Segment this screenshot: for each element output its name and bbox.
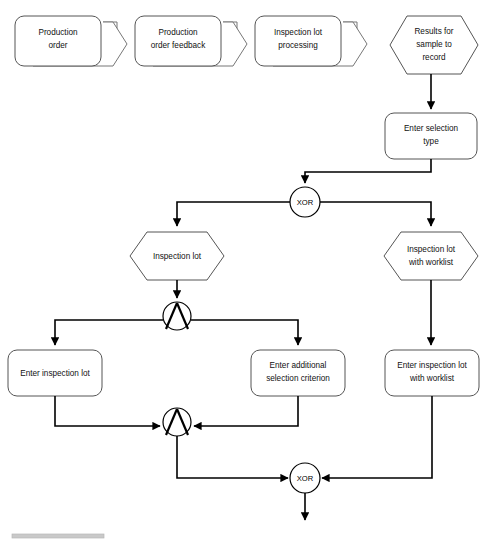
connector-xor-split-selection[interactable]: XOR	[290, 187, 320, 217]
connector-xor-join-final[interactable]: XOR	[290, 463, 320, 493]
edge-and-join-to-xor-join	[177, 436, 288, 478]
function-enter-inspection-lot-with-worklist-label-line-1: Enter inspection lot	[397, 361, 467, 370]
function-enter-inspection-lot-label: Enter inspection lot	[20, 369, 90, 378]
process-path-production-order-feedback-label-line-2: order feedback	[151, 41, 207, 50]
function-enter-selection-type-label-line-2: type	[423, 137, 439, 146]
process-path-production-order-feedback-label-line-1: Production	[158, 28, 198, 37]
function-enter-selection-type[interactable]: Enter selection type	[385, 113, 477, 159]
event-results-for-sample-label-line-1: Results for	[414, 27, 453, 36]
process-path-inspection-lot-processing-label-line-1: Inspection lot	[274, 28, 323, 37]
event-results-for-sample-label-line-3: record	[422, 53, 446, 62]
edge-xor-split-to-inspection-lot	[177, 202, 290, 226]
epc-diagram-svg: Production order Production order feedba…	[0, 0, 486, 542]
function-enter-inspection-lot-with-worklist-label-line-2: with worklist	[409, 374, 455, 383]
event-results-for-sample-to-record[interactable]: Results for sample to record	[390, 16, 478, 74]
process-path-inspection-lot-processing-label-line-2: processing	[278, 41, 318, 50]
event-inspection-lot-with-worklist-label-line-2: with worklist	[408, 258, 454, 267]
connector-xor-join-label: XOR	[297, 474, 314, 483]
edge-enter-inspection-lot-to-and-join	[55, 396, 160, 426]
function-enter-additional-selection-criterion-label-line-1: Enter additional	[270, 361, 327, 370]
process-path-production-order[interactable]: Production order	[15, 16, 127, 66]
function-enter-additional-selection-criterion-label-line-2: selection criterion	[266, 374, 330, 383]
edge-and-split-to-enter-additional-selection-criterion	[191, 320, 298, 345]
process-path-production-order-label-line-1: Production	[38, 28, 78, 37]
event-inspection-lot[interactable]: Inspection lot	[130, 232, 224, 280]
function-enter-inspection-lot[interactable]: Enter inspection lot	[8, 350, 102, 396]
process-path-inspection-lot-processing[interactable]: Inspection lot processing	[255, 16, 367, 66]
edge-enter-inspection-lot-with-worklist-to-xor-join	[322, 396, 432, 478]
footer-rule	[12, 534, 104, 538]
connector-and-split-inspection-lot[interactable]	[163, 302, 191, 330]
event-inspection-lot-label: Inspection lot	[153, 252, 202, 261]
edge-and-split-to-enter-inspection-lot	[55, 320, 163, 345]
process-path-production-order-feedback[interactable]: Production order feedback	[135, 16, 247, 66]
process-path-production-order-label-line-2: order	[48, 41, 67, 50]
edge-xor-split-to-inspection-lot-with-worklist	[320, 202, 431, 226]
connector-and-join-inspection-lot[interactable]	[163, 408, 191, 436]
event-inspection-lot-with-worklist[interactable]: Inspection lot with worklist	[384, 232, 478, 280]
epc-diagram-canvas: Production order Production order feedba…	[0, 0, 486, 542]
function-enter-inspection-lot-with-worklist[interactable]: Enter inspection lot with worklist	[385, 350, 479, 396]
event-inspection-lot-with-worklist-label-line-1: Inspection lot	[407, 245, 456, 254]
function-enter-additional-selection-criterion[interactable]: Enter additional selection criterion	[251, 350, 345, 396]
connector-xor-split-label: XOR	[297, 198, 314, 207]
event-results-for-sample-label-line-2: sample to	[416, 40, 452, 49]
edge-enter-selection-type-to-xor-split	[305, 159, 431, 183]
function-enter-selection-type-label-line-1: Enter selection	[404, 124, 459, 133]
edge-enter-additional-selection-criterion-to-and-join	[194, 396, 298, 426]
